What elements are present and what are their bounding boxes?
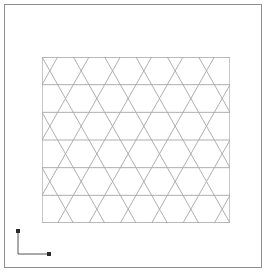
axis-svg: Y X — [13, 225, 57, 261]
viewport-frame: Y X — [4, 4, 262, 268]
mesh-viewer-app: Y X — [0, 0, 266, 272]
mesh-svg — [42, 57, 230, 223]
coordinate-axis-indicator: Y X — [13, 225, 57, 261]
mesh-canvas[interactable] — [42, 57, 230, 223]
